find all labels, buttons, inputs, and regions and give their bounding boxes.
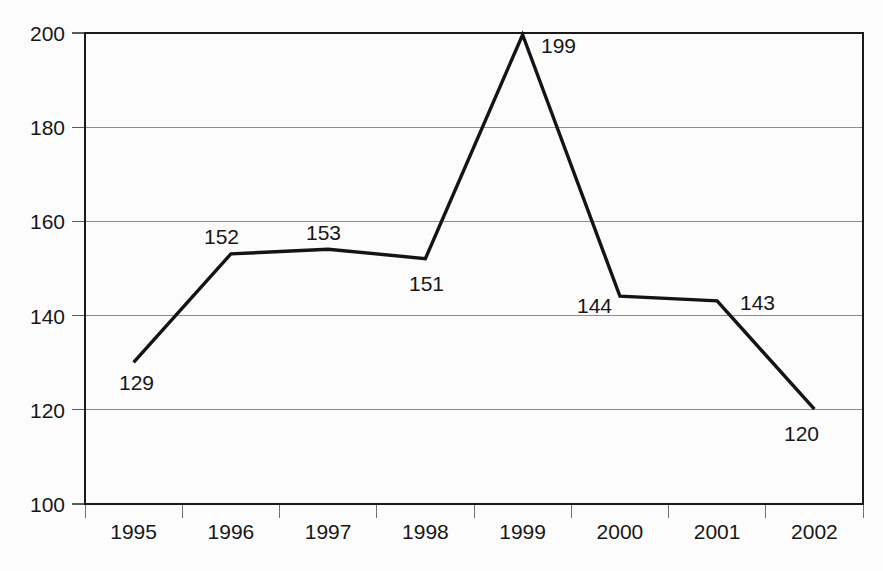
chart-container: 100120140160180200 199519961997199819992… (0, 0, 883, 571)
data-label-1996: 152 (204, 225, 239, 248)
x-axis-label-1997: 1997 (305, 520, 352, 543)
y-axis-label-180: 180 (30, 116, 65, 139)
data-label-1998: 151 (409, 272, 444, 295)
y-axis-label-200: 200 (30, 22, 65, 45)
x-axis-label-1996: 1996 (208, 520, 255, 543)
y-axis-label-120: 120 (30, 399, 65, 422)
data-label-1999: 199 (541, 34, 576, 57)
x-axis-label-2002: 2002 (791, 520, 838, 543)
x-axis-label-1999: 1999 (499, 520, 546, 543)
data-label-2001: 143 (740, 291, 775, 314)
x-axis-label-2000: 2000 (597, 520, 644, 543)
data-label-1995: 129 (119, 371, 154, 394)
data-label-2002: 120 (784, 422, 819, 445)
y-axis-label-100: 100 (30, 493, 65, 516)
x-axis-label-1998: 1998 (402, 520, 449, 543)
x-axis-label-1995: 1995 (110, 520, 157, 543)
line-chart: 100120140160180200 199519961997199819992… (0, 0, 883, 571)
data-label-2000: 144 (577, 294, 612, 317)
y-axis-label-140: 140 (30, 305, 65, 328)
y-axis-label-160: 160 (30, 210, 65, 233)
data-label-1997: 153 (306, 221, 341, 244)
x-axis-label-2001: 2001 (694, 520, 741, 543)
